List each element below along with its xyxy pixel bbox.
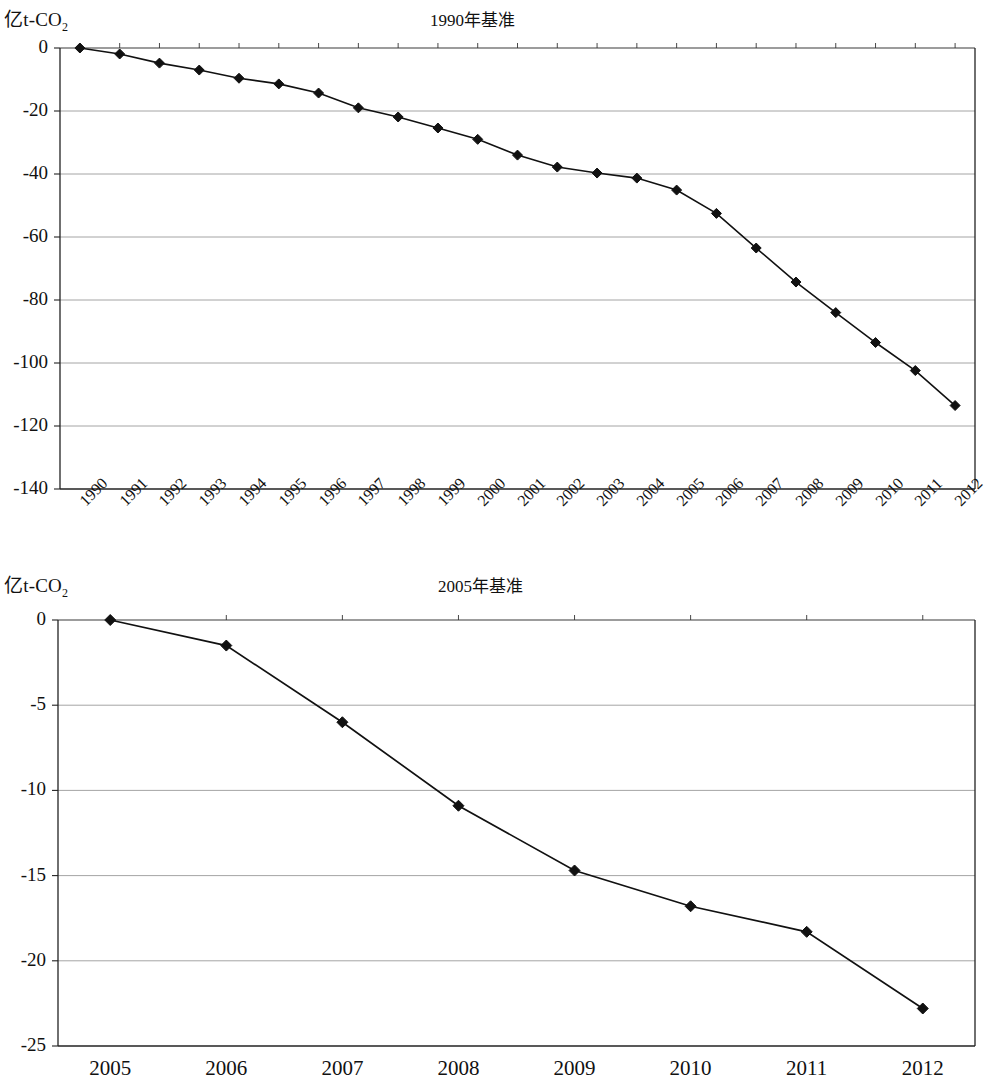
chart1-y-tick-label: -140 — [0, 477, 48, 499]
chart-panel-2005-baseline: 亿t-CO2 2005年基准 0-5-10-15-20-252005200620… — [0, 556, 980, 1081]
chart-panel-1990-baseline: 亿t-CO2 1990年基准 0-20-40-60-80-100-120-140… — [0, 0, 980, 552]
chart1-y-tick-label: -80 — [0, 288, 48, 310]
chart2-x-tick-label: 2006 — [181, 1056, 271, 1081]
chart2-y-tick-label: -25 — [0, 1034, 46, 1056]
chart2-x-tick-label: 2012 — [878, 1056, 968, 1081]
chart2-plot-area — [0, 556, 980, 1081]
chart2-y-tick-label: 0 — [0, 608, 46, 630]
chart2-y-tick-label: -5 — [0, 693, 46, 715]
chart1-y-tick-label: -40 — [0, 162, 48, 184]
chart2-y-tick-label: -20 — [0, 949, 46, 971]
chart1-y-tick-label: -20 — [0, 99, 48, 121]
chart1-y-tick-label: -100 — [0, 351, 48, 373]
chart2-x-tick-label: 2010 — [646, 1056, 736, 1081]
chart2-x-tick-label: 2005 — [65, 1056, 155, 1081]
chart1-y-tick-label: 0 — [0, 36, 48, 58]
chart2-y-tick-label: -15 — [0, 864, 46, 886]
chart2-x-tick-label: 2011 — [762, 1056, 852, 1081]
chart2-x-tick-label: 2008 — [413, 1056, 503, 1081]
chart1-y-tick-label: -60 — [0, 225, 48, 247]
chart1-plot-area — [0, 0, 980, 552]
chart2-y-tick-label: -10 — [0, 778, 46, 800]
chart2-x-tick-label: 2007 — [297, 1056, 387, 1081]
chart2-x-tick-label: 2009 — [530, 1056, 620, 1081]
chart1-y-tick-label: -120 — [0, 414, 48, 436]
